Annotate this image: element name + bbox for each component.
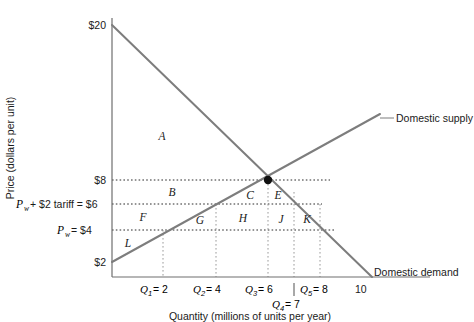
x-tick-q1: Q 1 = 2 [140, 283, 168, 298]
axes-lines [112, 18, 430, 277]
x-tick-q4-symbol: Q [272, 298, 280, 310]
area-label-h: H [238, 212, 248, 224]
area-label-b: B [168, 186, 175, 198]
tariff-welfare-chart: Domestic supply Domestic demand $20 $8 $… [0, 0, 474, 322]
x-tick-q5: Q 5 = 8 [300, 283, 328, 298]
area-label-j: J [278, 213, 284, 225]
area-label-a: A [157, 130, 166, 142]
x-tick-label-10: 10 [355, 283, 367, 295]
tariff-price-text: + $2 tariff = $6 [30, 198, 98, 210]
y-tick-label-8: $8 [94, 174, 106, 186]
x-tick-q3-value: = 6 [258, 283, 273, 295]
area-label-f: F [138, 211, 147, 223]
x-axis-title: Quantity (millions of units per year) [169, 310, 331, 322]
x-tick-q2: Q 2 = 4 [193, 283, 221, 298]
domestic-supply-curve [112, 114, 380, 262]
y-tick-label-20: $20 [88, 19, 106, 31]
curves [112, 25, 380, 277]
x-tick-q2-value: = 4 [206, 283, 221, 295]
quantity-guide-lines [163, 180, 320, 277]
tariff-price-symbol: P [15, 198, 23, 210]
y-tick-label-2: $2 [94, 256, 106, 268]
domestic-supply-label: Domestic supply [396, 112, 474, 124]
world-price-text: = $4 [71, 224, 92, 236]
y-axis-title: Price (dollars per unit) [4, 97, 16, 200]
tariff-price-subscript: w [24, 204, 29, 213]
x-tick-q5-value: = 8 [313, 283, 328, 295]
equilibrium-point [264, 176, 272, 184]
x-tick-q4-value: = 7 [285, 298, 300, 310]
domestic-demand-curve [112, 25, 372, 277]
chart-canvas: Domestic supply Domestic demand $20 $8 $… [0, 0, 474, 322]
area-label-l: L [124, 237, 131, 249]
x-tick-q1-subscript: 1 [148, 289, 152, 298]
area-label-k: K [302, 213, 312, 225]
area-label-e: E [273, 189, 281, 201]
x-tick-q5-symbol: Q [300, 283, 308, 295]
x-tick-q2-symbol: Q [193, 283, 201, 295]
world-price-subscript: w [65, 230, 70, 239]
world-price-symbol: P [56, 224, 64, 236]
world-price-label: P w = $4 [56, 224, 92, 239]
x-tick-q1-symbol: Q [140, 283, 148, 295]
x-tick-q3-symbol: Q [245, 283, 253, 295]
x-tick-q1-value: = 2 [153, 283, 168, 295]
x-tick-q3: Q 3 = 6 [245, 283, 273, 298]
area-label-c: C [246, 189, 254, 201]
area-label-g: G [196, 214, 205, 226]
domestic-demand-label: Domestic demand [374, 266, 459, 278]
tariff-price-label: P w + $2 tariff = $6 [15, 198, 98, 213]
